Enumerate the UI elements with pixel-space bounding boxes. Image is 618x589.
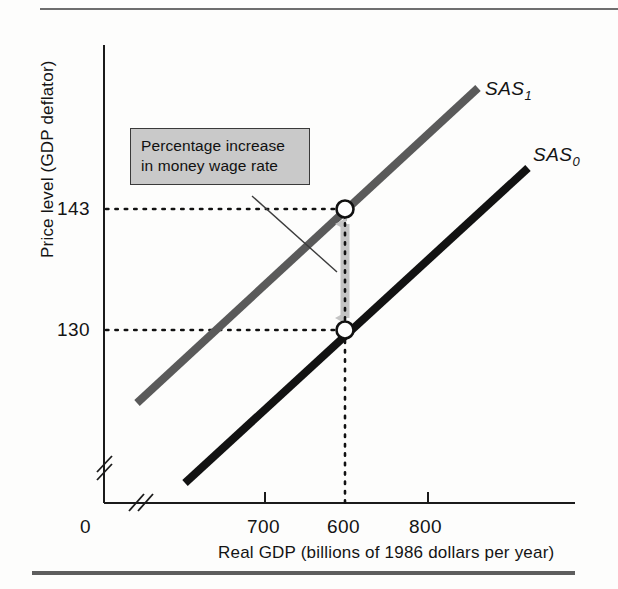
curve-label-sas0-base: SAS xyxy=(533,144,573,165)
callout-line-2: in money wage rate xyxy=(141,156,300,176)
curve-label-sas1-sub: 1 xyxy=(525,88,533,103)
x-tick-label-800: 800 xyxy=(409,516,442,538)
sas-shift-figure: Percentage increase in money wage rate 1… xyxy=(0,0,618,589)
x-tick-label-600: 600 xyxy=(327,516,360,538)
wage-increase-callout: Percentage increase in money wage rate xyxy=(130,128,310,185)
y-tick-label-130: 130 xyxy=(57,319,90,341)
x-tick-label-0: 0 xyxy=(80,516,91,538)
curve-label-sas0: SAS0 xyxy=(533,144,580,169)
y-tick-label-143: 143 xyxy=(57,198,90,220)
curve-label-sas1-base: SAS xyxy=(485,78,525,99)
equilibrium-point-upper xyxy=(337,201,354,218)
x-tick-label-700: 700 xyxy=(247,516,280,538)
callout-line-1: Percentage increase xyxy=(141,136,300,156)
y-axis-title: Price level (GDP deflator) xyxy=(38,60,58,258)
x-axis-title: Real GDP (billions of 1986 dollars per y… xyxy=(218,543,554,563)
equilibrium-point-lower xyxy=(337,322,354,339)
curve-sas0 xyxy=(185,168,528,483)
curve-label-sas1: SAS1 xyxy=(485,78,532,103)
curve-label-sas0-sub: 0 xyxy=(573,154,581,169)
